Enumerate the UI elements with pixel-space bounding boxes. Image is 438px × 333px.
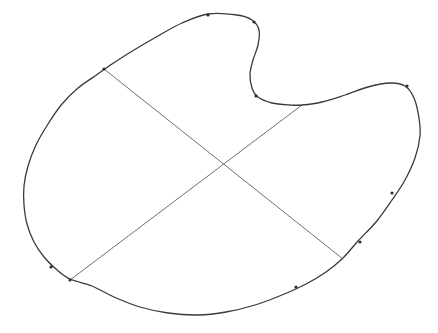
node-marker-3 bbox=[254, 94, 257, 97]
figure-canvas bbox=[0, 0, 438, 333]
node-marker-7 bbox=[294, 285, 297, 288]
chord-sw-ne bbox=[70, 105, 302, 280]
chord-group bbox=[70, 69, 343, 280]
node-marker-6 bbox=[358, 240, 361, 243]
node-marker-5 bbox=[390, 191, 393, 194]
shape-diagram bbox=[0, 0, 438, 333]
node-marker-1 bbox=[102, 67, 105, 70]
node-marker-8 bbox=[49, 265, 52, 268]
node-marker-0 bbox=[206, 13, 209, 16]
node-marker-group bbox=[49, 13, 408, 288]
node-marker-2 bbox=[252, 20, 255, 23]
node-marker-9 bbox=[68, 278, 71, 281]
node-marker-4 bbox=[405, 84, 408, 87]
